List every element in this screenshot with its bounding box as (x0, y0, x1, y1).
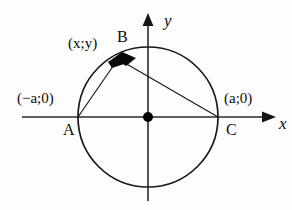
point-a-coordinates: (−a;0) (17, 91, 54, 106)
chord-bc (118, 59, 218, 117)
geometry-figure: y x B (x;y) (−a;0) A (a;0) C (0, 0, 292, 210)
point-b-label: B (117, 29, 128, 45)
y-axis-arrowhead (143, 13, 154, 26)
origin-point-marker (143, 112, 153, 122)
point-c-label: C (226, 122, 237, 138)
point-b-marker (108, 52, 136, 68)
x-axis-label: x (279, 115, 287, 132)
point-b-coordinates: (x;y) (68, 36, 97, 51)
point-c-coordinates: (a;0) (224, 91, 252, 106)
x-axis-arrowhead (262, 112, 276, 123)
y-axis-label: y (164, 12, 172, 29)
point-a-label: A (63, 122, 75, 138)
